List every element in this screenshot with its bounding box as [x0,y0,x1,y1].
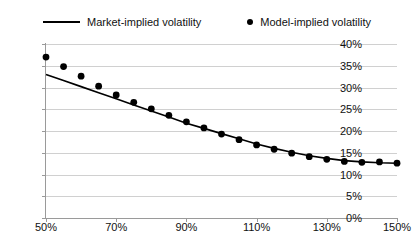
data-point [95,83,102,90]
data-point [376,158,383,165]
legend-label-model: Model-implied volatility [260,17,371,28]
data-point [306,153,313,160]
x-axis-label: 90% [175,222,197,233]
data-point [359,159,366,166]
data-point [341,158,348,165]
gridline [46,218,397,219]
data-point [271,146,278,153]
x-axis-label: 110% [243,222,270,233]
data-point [78,73,85,80]
y-axis-label: 35% [340,61,362,72]
y-axis-label: 30% [340,83,362,94]
y-axis-label: 5% [346,191,362,202]
data-point [60,63,67,70]
data-point [130,99,137,106]
data-point [394,160,401,167]
data-point [113,91,120,98]
x-axis-label: 50% [35,222,57,233]
chart-legend: Market-implied volatility Model-implied … [0,13,414,31]
y-axis-label: 25% [340,104,362,115]
data-point [148,105,155,112]
y-axis-label: 0% [346,213,362,224]
x-axis-label: 70% [105,222,127,233]
y-axis-label: 10% [340,170,362,181]
data-point [253,142,260,149]
x-axis-label: 130% [313,222,341,233]
data-point [323,156,330,163]
dot-icon [247,19,253,25]
data-point [43,54,50,61]
data-point [165,112,172,119]
data-point [183,118,190,125]
legend-label-market: Market-implied volatility [87,17,201,28]
data-point [218,131,225,138]
x-axis-label: 150% [383,222,411,233]
y-axis-label: 40% [340,39,362,50]
legend-entry-market: Market-implied volatility [43,17,201,28]
line-icon [43,21,80,23]
volatility-chart: Market-implied volatility Model-implied … [0,0,414,252]
legend-entry-model: Model-implied volatility [247,17,371,28]
data-point [288,150,295,157]
y-axis-label: 20% [340,126,362,137]
data-point [236,136,243,143]
data-point [201,125,208,132]
y-axis-label: 15% [340,148,362,159]
